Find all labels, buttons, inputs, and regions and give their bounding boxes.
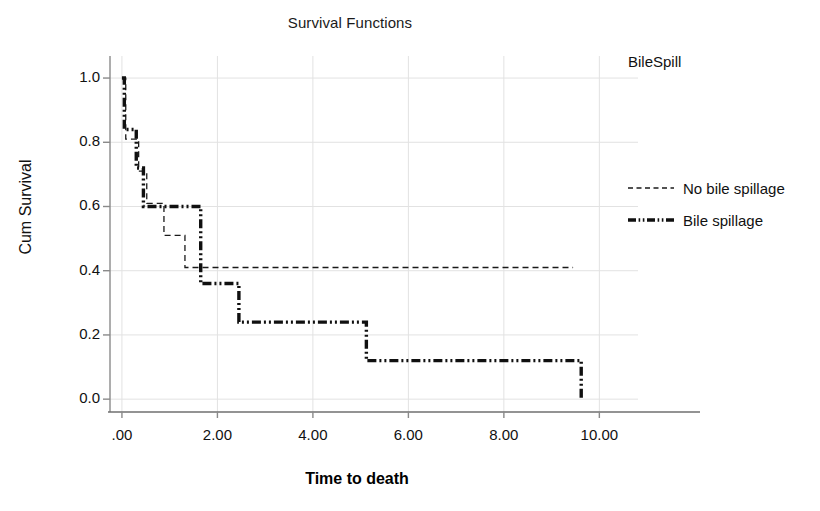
legend-title: BileSpill: [628, 53, 681, 70]
y-tick-label: 0.8: [54, 132, 100, 149]
series-line-bile-spillage: [122, 78, 581, 399]
x-tick-label: 2.00: [182, 426, 252, 443]
gridlines: [110, 56, 638, 412]
series-lines: [122, 78, 581, 399]
y-tick-label: 0.2: [54, 325, 100, 342]
survival-functions-chart: Survival Functions 0.00.20.40.60.81.0 .0…: [0, 0, 820, 511]
legend-entry-no-bile-spillage: No bile spillage: [628, 177, 785, 199]
y-tick-label: 0.6: [54, 196, 100, 213]
legend-label: No bile spillage: [683, 180, 785, 197]
legend-label: Bile spillage: [683, 212, 763, 229]
x-tick-label: 6.00: [373, 426, 443, 443]
y-tick-label: 1.0: [54, 68, 100, 85]
x-tick-label: 10.00: [564, 426, 634, 443]
y-axis-label: Cum Survival: [17, 137, 35, 277]
x-tick-label: .00: [87, 426, 157, 443]
tick-marks: [103, 78, 599, 418]
legend-entry-bile-spillage: Bile spillage: [628, 209, 763, 231]
legend-swatch-dashdotdot-icon: [628, 213, 674, 227]
y-tick-label: 0.0: [54, 389, 100, 406]
x-axis-label: Time to death: [110, 470, 604, 488]
legend-swatch-dashed-icon: [628, 181, 674, 195]
series-line-no-bile-spillage: [122, 78, 573, 267]
x-tick-label: 8.00: [469, 426, 539, 443]
y-tick-label: 0.4: [54, 261, 100, 278]
axis-lines: [108, 56, 700, 412]
x-tick-label: 4.00: [278, 426, 348, 443]
